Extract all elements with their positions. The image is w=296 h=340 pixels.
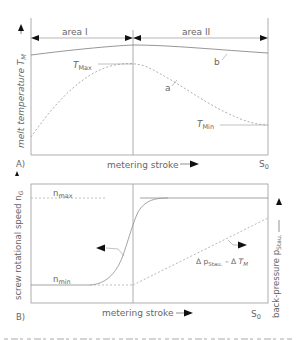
panel-a-x-label: metering stroke bbox=[107, 160, 179, 170]
panel-a: area I area II TMax TMin b a melt temper… bbox=[16, 18, 269, 171]
pressure-line-leader bbox=[228, 240, 238, 245]
panel-a-y-label: melt temperature TM bbox=[16, 54, 28, 148]
panel-b: nmax nmin Δ pStau. – Δ TM screw rotation… bbox=[13, 171, 282, 322]
area-2-left-arrow-icon bbox=[133, 35, 141, 41]
area-1-right-arrow-icon bbox=[125, 35, 133, 41]
area-1-left-arrow-icon bbox=[31, 35, 39, 41]
panel-b-x-label: metering stroke bbox=[102, 308, 174, 318]
relation-label: Δ pStau. – Δ TM bbox=[196, 257, 248, 267]
panel-b-x-arrow-icon bbox=[184, 310, 193, 317]
panel-b-right-y-label: back-pressure pStau. bbox=[271, 234, 282, 318]
panel-a-x-arrow-icon bbox=[190, 161, 199, 168]
panel-b-left-y-label: screw rotational speed nG bbox=[13, 190, 24, 300]
curve-b-label: b bbox=[214, 57, 220, 67]
panel-b-end-label: S0 bbox=[251, 309, 261, 321]
curve-a bbox=[31, 64, 268, 137]
curve-b bbox=[31, 45, 268, 55]
panel-b-tag: B) bbox=[16, 312, 25, 322]
t-min-label: TMin bbox=[197, 119, 214, 131]
panel-a-tag: A) bbox=[16, 159, 25, 169]
right-axis-pointer-icon bbox=[238, 242, 247, 249]
panel-a-y-arrow-icon bbox=[18, 24, 24, 31]
n-max-label: nmax bbox=[53, 188, 73, 200]
n-min-label: nmin bbox=[53, 274, 71, 286]
back-pressure-line bbox=[133, 218, 268, 285]
screw-speed-curve bbox=[90, 198, 168, 285]
panel-b-right-y-arrow-icon bbox=[276, 198, 282, 205]
curve-b-leader bbox=[222, 54, 227, 60]
curve-a-leader bbox=[172, 80, 177, 86]
area-1-label: area I bbox=[62, 27, 88, 37]
speed-curve-leader bbox=[106, 248, 124, 256]
curve-a-label: a bbox=[165, 83, 171, 93]
left-axis-pointer-icon bbox=[96, 245, 105, 252]
panel-b-left-y-arrow-icon bbox=[15, 171, 19, 176]
area-2-label: area II bbox=[182, 27, 210, 37]
area-2-right-arrow-icon bbox=[260, 35, 268, 41]
diagram-canvas: area I area II TMax TMin b a melt temper… bbox=[0, 0, 296, 340]
panel-a-end-label: S0 bbox=[259, 159, 269, 171]
t-max-label: TMax bbox=[73, 60, 92, 72]
